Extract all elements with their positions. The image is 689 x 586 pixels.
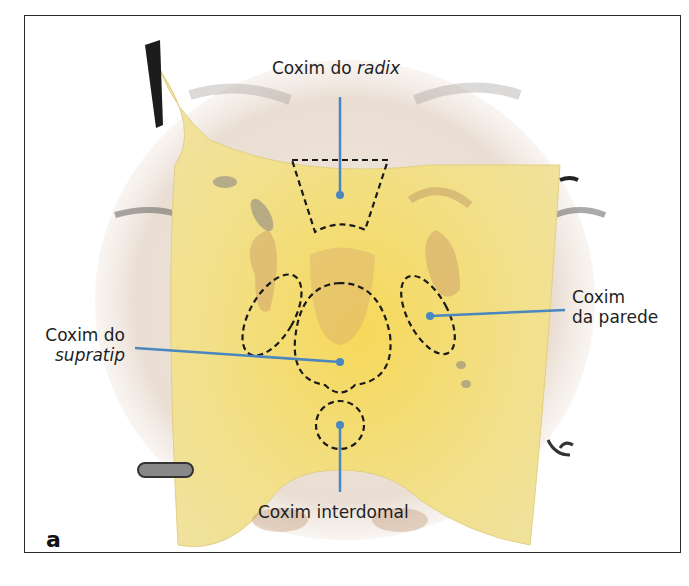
graft-hole [461,380,471,388]
graft-hole [213,176,237,188]
label-line: da parede [572,307,658,327]
right-eyelash [555,210,605,215]
label-coxim-supratip: Coxim do supratip [40,325,125,365]
graft-hole [456,361,466,369]
label-italic: radix [357,58,400,78]
top-left-forceps-icon [145,40,163,128]
label-text: Coxim do [272,58,357,78]
right-hook-icon [560,178,578,180]
bottom-right-hook-icon [548,440,573,455]
label-coxim-interdomal: Coxim interdomal [258,502,409,522]
label-coxim-parede: Coxim da parede [572,287,658,327]
label-line: Coxim [572,287,658,307]
label-coxim-radix: Coxim do radix [272,58,400,78]
bottom-left-retractor-icon [138,463,193,477]
label-line: Coxim do [40,325,125,345]
panel-letter: a [46,527,61,552]
label-italic: supratip [55,345,125,365]
